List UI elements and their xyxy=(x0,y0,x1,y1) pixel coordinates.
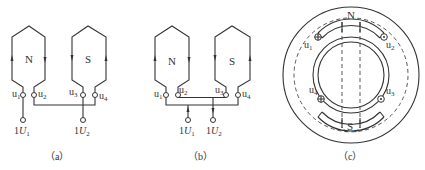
label-1U2: 1U2 xyxy=(74,125,90,138)
terminal-u1 xyxy=(164,93,169,98)
pole-label-s: S xyxy=(85,53,91,65)
conductor-u4-cross-icon xyxy=(318,96,325,103)
panel-b: N S u1 u2 u3 u4 1U1 1U2 （b） xyxy=(154,26,252,162)
label-u1: u1 xyxy=(304,39,313,52)
current-arrow-down-icon xyxy=(71,55,74,61)
terminal-u3 xyxy=(81,93,86,98)
label-u1: u1 xyxy=(12,88,21,101)
conductor-u3-dot-icon xyxy=(378,96,385,103)
terminal-u2 xyxy=(32,93,37,98)
pole-label-s: S xyxy=(347,120,353,132)
flux-path-dashed xyxy=(294,18,408,132)
current-arrow-up-icon xyxy=(187,107,190,113)
caption-a: （a） xyxy=(45,151,69,162)
current-arrow-up-icon xyxy=(154,55,157,61)
terminal-1U1 xyxy=(186,118,191,123)
pole-shoe-n xyxy=(318,19,384,38)
rotor-outer-circle xyxy=(313,37,389,113)
terminal-1U2 xyxy=(211,118,216,123)
terminal-u3 xyxy=(224,93,229,98)
current-arrow-up-icon xyxy=(105,55,108,61)
current-arrow-down-icon xyxy=(212,108,215,114)
current-arrow-up-icon xyxy=(249,55,252,61)
terminal-1U1 xyxy=(21,118,26,123)
rotor-inner-circle xyxy=(318,42,384,108)
label-u4: u4 xyxy=(242,88,251,101)
label-u3: u3 xyxy=(386,85,395,98)
terminal-1U2 xyxy=(81,118,86,123)
panel-c: N S u1 u2 u3 u4 （c） xyxy=(283,7,419,162)
label-u2: u2 xyxy=(38,88,47,101)
conductor-u1-cross-icon xyxy=(315,34,322,41)
panel-a: N S u1 u2 u3 u4 1U1 1U2 （a） xyxy=(11,26,109,162)
current-arrow-up-icon xyxy=(11,55,14,61)
label-u3: u3 xyxy=(69,86,78,99)
terminal-u4 xyxy=(93,93,98,98)
label-u3: u3 xyxy=(215,84,224,97)
label-1U1: 1U1 xyxy=(14,125,30,138)
terminal-u1 xyxy=(21,93,26,98)
current-arrow-down-icon xyxy=(188,57,191,63)
caption-b: （b） xyxy=(188,151,213,162)
pole-label-n: N xyxy=(168,55,176,67)
wire-u1-u4-bus xyxy=(166,98,238,106)
label-1U2: 1U2 xyxy=(206,125,222,138)
label-u1: u1 xyxy=(154,88,163,101)
current-arrow-down-icon xyxy=(44,57,47,63)
winding-diagram: N S u1 u2 u3 u4 1U1 1U2 （a） N xyxy=(0,0,425,170)
label-1U1: 1U1 xyxy=(179,125,195,138)
pole-label-n: N xyxy=(347,9,355,21)
label-u4: u4 xyxy=(99,90,108,103)
pole-label-n: N xyxy=(25,53,33,65)
label-u4: u4 xyxy=(309,84,318,97)
current-arrow-down-icon xyxy=(214,55,217,61)
caption-c: （c） xyxy=(338,151,362,162)
pole-label-s: S xyxy=(229,55,235,67)
label-u2: u2 xyxy=(386,39,395,52)
terminal-u4 xyxy=(236,93,241,98)
